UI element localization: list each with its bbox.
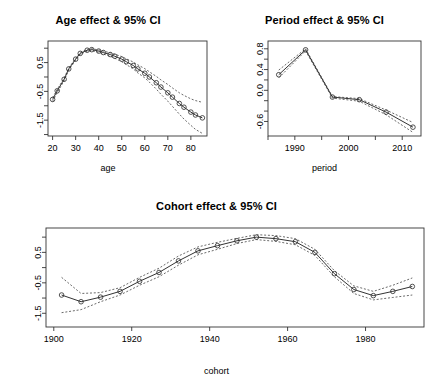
age-axis-label: age [0, 163, 216, 173]
cohort-axis-label: cohort [0, 366, 433, 376]
ci-band-line [62, 235, 413, 294]
x-tick-label: 80 [186, 143, 196, 153]
x-tick-label: 70 [163, 143, 173, 153]
data-point-marker [276, 72, 281, 77]
x-tick-label: 60 [140, 143, 150, 153]
estimate-line [279, 50, 413, 127]
x-tick-label: 1980 [356, 334, 376, 344]
y-tick-label: 0.8 [255, 43, 265, 56]
x-tick-label: 2000 [339, 143, 359, 153]
y-tick-label: -1.5 [33, 306, 43, 322]
x-tick-label: 2010 [392, 143, 412, 153]
x-tick-label: 20 [48, 143, 58, 153]
plot-frame [48, 41, 207, 136]
cohort-effect-panel: Cohort effect & 95% CI 19001920194019601… [0, 190, 433, 391]
age-effect-plot: 20304050607080-1.5-0.50.5 [0, 0, 216, 190]
x-tick-label: 50 [117, 143, 127, 153]
y-tick-label: 0.0 [255, 84, 265, 97]
x-tick-label: 40 [94, 143, 104, 153]
period-axis-label: period [216, 163, 433, 173]
period-effect-plot: 199020002010-0.60.00.40.8 [216, 0, 433, 190]
data-point-marker [411, 125, 416, 130]
x-tick-label: 1990 [285, 143, 305, 153]
estimate-line [62, 237, 413, 302]
apc-effects-figure: Age effect & 95% CI 20304050607080-1.5-0… [0, 0, 433, 391]
y-tick-label: 0.5 [33, 246, 43, 259]
x-tick-label: 1960 [278, 334, 298, 344]
y-tick-label: 0.5 [35, 56, 45, 69]
plot-frame [268, 41, 421, 136]
y-tick-label: -0.5 [35, 84, 45, 100]
ci-band-line [62, 240, 413, 313]
x-tick-label: 30 [71, 143, 81, 153]
y-tick-label: -1.5 [35, 112, 45, 128]
x-tick-label: 1900 [44, 334, 64, 344]
y-tick-label: -0.6 [255, 114, 265, 130]
ci-band-line [279, 49, 413, 123]
period-effect-panel: Period effect & 95% CI 199020002010-0.60… [216, 0, 433, 190]
ci-band-line [279, 51, 413, 133]
x-tick-label: 1940 [200, 334, 220, 344]
plot-frame [46, 228, 424, 327]
y-tick-label: -0.5 [33, 275, 43, 291]
x-tick-label: 1920 [122, 334, 142, 344]
ci-band-line [53, 51, 203, 134]
y-tick-label: 0.4 [255, 63, 265, 76]
age-effect-panel: Age effect & 95% CI 20304050607080-1.5-0… [0, 0, 216, 190]
cohort-effect-plot: 19001920194019601980-1.5-0.50.5 [0, 190, 433, 391]
